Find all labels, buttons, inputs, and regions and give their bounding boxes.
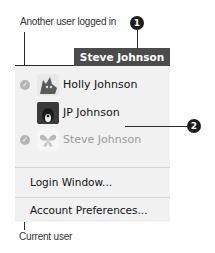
- logged-in-check-icon: ✓: [20, 80, 30, 90]
- callout-2-leader-line: [125, 126, 187, 127]
- callout-1: 1: [130, 16, 144, 30]
- user-name: JP Johnson: [63, 106, 120, 119]
- menu-item-login-window[interactable]: Login Window...: [30, 176, 112, 188]
- menu-item-user-steve-johnson: ✓ Steve Johnson: [15, 126, 170, 153]
- menu-item-account-preferences[interactable]: Account Preferences...: [30, 204, 148, 216]
- butterfly-avatar-icon: [37, 129, 59, 151]
- current-user-caption: Current user: [19, 231, 72, 242]
- menu-item-user-jp-johnson[interactable]: JP Johnson: [15, 99, 170, 126]
- logged-in-check-icon: ✓: [20, 135, 30, 145]
- callout-1-leader-line: [137, 30, 138, 48]
- menu-divider: [15, 167, 170, 168]
- user-name: Holly Johnson: [63, 78, 137, 91]
- another-user-caption: Another user logged in: [20, 16, 116, 27]
- dog-avatar-icon: [37, 102, 59, 124]
- menu-item-user-holly-johnson[interactable]: ✓ Holly Johnson: [15, 71, 170, 98]
- menu-divider: [15, 197, 170, 198]
- user-switch-menu: ✓ Holly Johnson JP Johnson ✓: [15, 66, 170, 222]
- cat-avatar-icon: [37, 74, 59, 96]
- fast-user-switch-menu-title[interactable]: Steve Johnson: [74, 48, 170, 66]
- user-name: Steve Johnson: [63, 133, 141, 146]
- callout-2: 2: [187, 119, 201, 133]
